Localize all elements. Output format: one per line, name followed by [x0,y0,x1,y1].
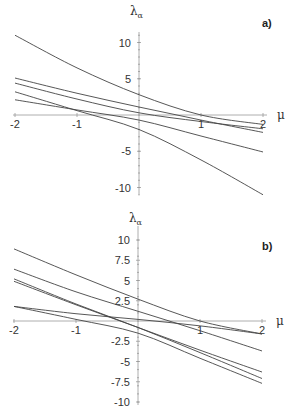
x-tick-label: 2 [259,324,265,336]
panel-label: a) [262,17,272,29]
x-tick-label: -1 [72,118,82,130]
y-tick-label: 5 [124,275,130,287]
x-tick-label: -1 [71,324,81,336]
y-tick-label: -5 [120,356,130,368]
y-tick-label: 5 [125,73,131,85]
y-tick-label: 7.5 [115,254,130,266]
panel-label: b) [262,240,273,252]
panel-a: -2-112105-5-10μλαa) [10,4,285,195]
x-tick-label: -2 [9,324,19,336]
y-tick-label: -5 [121,145,131,157]
y-tick-label: -10 [114,396,130,408]
y-tick-label: 10 [119,37,131,49]
chart-figure: -2-112105-5-10μλαa) -2-112107.552.5-2.5-… [0,0,293,414]
y-tick-label: -2.5 [111,335,130,347]
y-tick-label: 10 [118,234,130,246]
y-tick-label: -7.5 [111,376,130,388]
x-axis-label: μ [277,108,285,122]
y-tick-label: -10 [115,182,131,194]
y-axis-label: λα [129,211,143,227]
x-tick-label: -2 [10,118,20,130]
y-axis-label: λα [130,4,144,20]
panel-b: -2-112107.552.5-2.5-5-7.5-10μλαb) [9,211,284,408]
x-axis-label: μ [276,314,284,328]
